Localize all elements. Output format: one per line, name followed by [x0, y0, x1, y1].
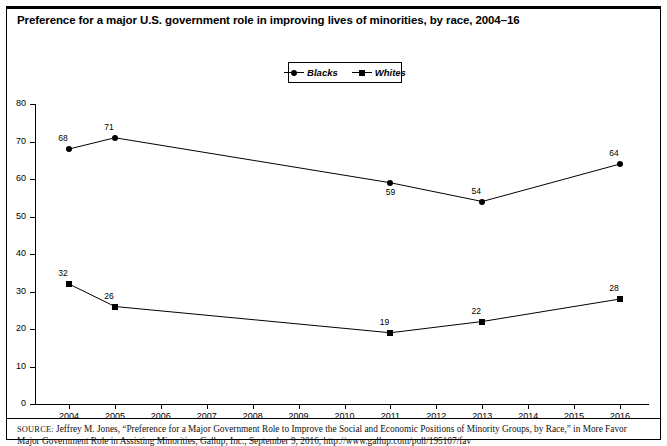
x-axis-tick-label: 2006 [141, 411, 181, 421]
x-axis-tick-label: 2013 [462, 411, 502, 421]
y-axis-tick-label: 70 [4, 136, 26, 146]
x-axis-tick-label: 2016 [600, 411, 640, 421]
legend-line-blacks [284, 68, 304, 77]
data-point-label: 19 [371, 317, 397, 327]
y-axis-tick-label: 80 [4, 98, 26, 108]
x-axis-tick-label: 2012 [416, 411, 456, 421]
data-point-label: 68 [50, 133, 76, 143]
x-axis-tick-label: 2008 [233, 411, 273, 421]
legend-line-whites [352, 68, 372, 77]
data-point-marker[interactable] [387, 330, 393, 336]
x-axis-tick-label: 2015 [554, 411, 594, 421]
x-axis-tick-label: 2005 [95, 411, 135, 421]
data-point-marker[interactable] [617, 161, 623, 167]
y-axis-tick-label: 20 [4, 323, 26, 333]
y-axis-tick-label: 40 [4, 248, 26, 258]
source-citation: Jeffrey M. Jones, “Preference for a Majo… [17, 424, 627, 446]
x-axis-tick-label: 2007 [187, 411, 227, 421]
legend-label-whites: Whites [375, 67, 406, 78]
data-point-marker[interactable] [112, 135, 118, 141]
source-label: SOURCE: [17, 425, 54, 434]
data-point-marker[interactable] [66, 146, 72, 152]
circle-marker-icon [291, 70, 297, 76]
y-axis-tick-label: 0 [4, 398, 26, 408]
square-marker-icon [359, 70, 365, 76]
x-axis-tick-label: 2010 [325, 411, 365, 421]
page-title: Preference for a major U.S. government r… [17, 14, 520, 26]
y-axis-tick-label: 10 [4, 361, 26, 371]
x-axis-tick-label: 2011 [370, 411, 410, 421]
figure-page: Preference for a major U.S. government r… [0, 0, 667, 446]
source-note: SOURCE: Jeffrey M. Jones, “Preference fo… [17, 424, 649, 446]
y-axis-tick-label: 50 [4, 211, 26, 221]
data-point-label: 54 [463, 186, 489, 196]
data-point-label: 22 [463, 306, 489, 316]
legend-item-whites[interactable]: Whites [352, 67, 406, 78]
data-point-label: 26 [96, 291, 122, 301]
data-point-label: 59 [377, 187, 403, 197]
source-divider [7, 418, 660, 419]
data-point-marker[interactable] [112, 304, 118, 310]
legend-item-blacks[interactable]: Blacks [284, 67, 338, 78]
y-axis-tick-label: 60 [4, 173, 26, 183]
x-axis-tick-label: 2014 [508, 411, 548, 421]
chart-legend: Blacks Whites [288, 62, 402, 83]
data-point-marker[interactable] [66, 281, 72, 287]
data-point-label: 64 [601, 148, 627, 158]
data-point-marker[interactable] [617, 296, 623, 302]
data-point-marker[interactable] [479, 319, 485, 325]
data-point-marker[interactable] [479, 199, 485, 205]
data-point-label: 32 [50, 268, 76, 278]
x-axis-tick-label: 2004 [49, 411, 89, 421]
data-point-label: 71 [96, 122, 122, 132]
y-axis-tick-label: 30 [4, 286, 26, 296]
x-axis-tick-label: 2009 [279, 411, 319, 421]
data-point-label: 28 [601, 283, 627, 293]
legend-label-blacks: Blacks [307, 67, 338, 78]
